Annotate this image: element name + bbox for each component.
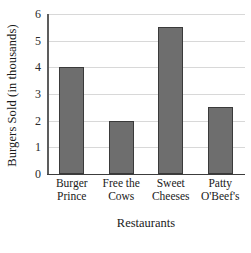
bar-series bbox=[47, 14, 245, 174]
y-axis-tick-label: 5 bbox=[35, 35, 41, 47]
x-axis-tick-label-line: Cows bbox=[97, 190, 147, 203]
y-axis-tick-label: 0 bbox=[35, 168, 41, 180]
x-axis-tick-labels: BurgerPrinceFree theCowsSweetCheesesPatt… bbox=[47, 177, 245, 211]
x-axis-tick-label-line: Free the bbox=[97, 177, 147, 190]
x-axis-tick-label-line: Patty bbox=[196, 177, 246, 190]
x-axis-tick-label-line: Cheeses bbox=[146, 190, 196, 203]
y-axis-title-text: Burgers Sold (in thousands) bbox=[5, 24, 20, 166]
y-axis-tick-label: 3 bbox=[35, 88, 41, 100]
x-axis-title: Restaurants bbox=[47, 216, 245, 231]
x-axis-tick-label: SweetCheeses bbox=[146, 177, 196, 203]
y-axis-tick-label: 6 bbox=[35, 8, 41, 20]
y-axis-tick-label: 1 bbox=[35, 141, 41, 153]
x-axis-tick-label: Free theCows bbox=[97, 177, 147, 203]
x-axis-tick-label-line: Prince bbox=[47, 190, 97, 203]
bar bbox=[208, 107, 233, 174]
x-axis-tick-label-line: O'Beef's bbox=[196, 190, 246, 203]
y-axis-tick-labels: 0123456 bbox=[24, 14, 44, 174]
x-axis-tick-label: PattyO'Beef's bbox=[196, 177, 246, 203]
x-axis-tick-label-line: Burger bbox=[47, 177, 97, 190]
y-axis-title: Burgers Sold (in thousands) bbox=[0, 0, 24, 190]
y-axis-tick-label: 4 bbox=[35, 61, 41, 73]
bar bbox=[109, 121, 134, 174]
bar-chart: Burgers Sold (in thousands) 0123456 Burg… bbox=[0, 0, 251, 253]
x-axis-tick-label-line: Sweet bbox=[146, 177, 196, 190]
plot-area bbox=[47, 14, 245, 174]
bar bbox=[59, 67, 84, 174]
x-axis-baseline bbox=[47, 174, 245, 175]
x-axis-tick-label: BurgerPrince bbox=[47, 177, 97, 203]
y-axis-tick-label: 2 bbox=[35, 115, 41, 127]
bar bbox=[158, 27, 183, 174]
